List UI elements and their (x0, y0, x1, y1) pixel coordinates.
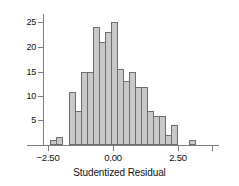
y-tick-label-5-wrap: 5 (0, 116, 36, 125)
bar-19 (171, 125, 178, 145)
y-tick-label-25-wrap: 25 (0, 18, 36, 27)
x-axis-line (27, 145, 219, 146)
x-tick-mark-right-end (212, 146, 213, 151)
y-tick-label-5: 5 (0, 116, 36, 125)
x-tick-label-2-50: 2.50 (158, 153, 198, 163)
y-tick-label-15: 15 (0, 68, 36, 77)
x-tick-mark-0-00 (113, 146, 114, 151)
bar-20 (189, 140, 196, 145)
x-tick-mark-2-50 (178, 146, 179, 151)
y-tick-label-10-wrap: 10 (0, 92, 36, 101)
x-axis-title: Studentized Residual (0, 167, 239, 178)
y-tick-label-15-wrap: 15 (0, 68, 36, 77)
x-tick-label-0-00: 0.00 (93, 153, 133, 163)
x-tick-label-neg2-50: −2.50 (28, 153, 68, 163)
y-tick-label-20: 20 (0, 43, 36, 52)
y-tick-label-20-wrap: 20 (0, 43, 36, 52)
x-tick-mark-neg2-50 (48, 146, 49, 151)
bars-container (44, 12, 219, 145)
y-tick-label-10: 10 (0, 92, 36, 101)
y-tick-label-25: 25 (0, 18, 36, 27)
bar-1 (56, 137, 63, 145)
histogram-chart: 25 20 15 10 5 (0, 0, 239, 186)
